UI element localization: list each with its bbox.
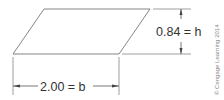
height-arrow-top xyxy=(180,9,183,15)
base-arrow-left xyxy=(13,85,20,88)
height-arrow-bottom xyxy=(180,48,183,54)
height-label: 0.84 = h xyxy=(156,25,202,39)
copyright-text: © Cengage Learning 2014 xyxy=(214,24,220,95)
parallelogram-shape xyxy=(13,9,150,54)
base-label: 2.00 = b xyxy=(40,80,86,94)
base-arrow-right xyxy=(112,85,119,88)
parallelogram-diagram: 0.84 = h 2.00 = b © Cengage Learning 201… xyxy=(0,0,224,100)
